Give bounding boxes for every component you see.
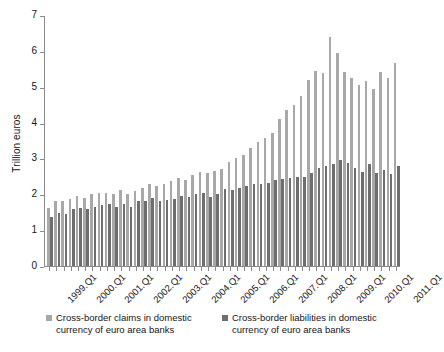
x-tick-label: 2008.Q1 [325,272,358,305]
bar-group [191,16,198,266]
bar-group [278,16,285,266]
bar-liabilities [115,207,118,266]
bar-claims [112,194,115,266]
x-tick-mark [179,267,180,271]
x-tick-label: 2004.Q1 [210,272,243,305]
bar-liabilities [339,160,342,266]
x-tick-mark [194,266,195,271]
bar-group [220,16,227,266]
y-tick-label: 5 [31,81,37,92]
bar-group [134,16,141,266]
bar-claims [61,201,64,266]
bar-group [314,16,321,266]
bar-group [358,16,365,266]
bar-group [98,16,105,266]
bar-group [350,16,357,266]
x-tick-label: 2005.Q1 [239,272,272,305]
y-tick-mark [40,16,44,17]
bar-group [343,16,350,266]
x-tick-mark [223,266,224,271]
x-tick-mark [309,266,310,271]
bar-claims [379,72,382,266]
bar-group [170,16,177,266]
bar-claims [285,110,288,266]
x-tick-label: 2009.Q1 [354,272,387,305]
x-tick-label: 2003.Q1 [181,272,214,305]
bar-claims [372,89,375,266]
bar-liabilities [238,188,241,266]
bar-claims [163,184,166,266]
bar-claims [126,194,129,266]
plot-area: 01234567 [44,16,400,267]
bar-claims [329,37,332,266]
x-tick-mark [186,267,187,271]
x-tick-mark [302,267,303,271]
bar-claims [206,173,209,266]
bar-group [394,16,401,266]
y-tick: 5 [18,88,44,89]
bar-liabilities [58,213,61,266]
bar-claims [134,191,137,266]
x-tick-mark [360,267,361,271]
x-tick-mark [143,267,144,271]
bar-claims [387,78,390,266]
x-tick-mark [172,267,173,271]
y-tick-label: 3 [31,152,37,163]
bar-liabilities [123,204,126,266]
liabilities-swatch [222,315,228,321]
y-tick-mark [40,88,44,89]
bar-group [213,16,220,266]
bar-group [105,16,112,266]
y-tick-mark [40,231,44,232]
bar-liabilities [274,180,277,266]
bar-claims [213,171,216,266]
bar-group [155,16,162,266]
x-tick-mark [324,267,325,271]
x-tick-mark [100,267,101,271]
bar-group [235,16,242,266]
x-tick-mark [266,267,267,271]
bar-liabilities [101,205,104,266]
x-tick-mark [56,267,57,271]
x-tick-label: 2000.Q1 [94,272,127,305]
x-tick-label: 2011.Q1 [412,272,444,304]
bar-liabilities [130,207,133,266]
bar-liabilities [332,164,335,266]
bar-liabilities [383,170,386,266]
x-tick-label: 2006.Q1 [268,272,301,305]
bar-liabilities [325,166,328,266]
bar-group [365,16,372,266]
x-tick-mark [338,266,339,271]
bar-claims [105,193,108,267]
bar-group [249,16,256,266]
y-tick: 2 [18,195,44,196]
bar-claims [249,148,252,266]
bar-group [126,16,133,266]
bar-liabilities [188,197,191,266]
x-tick-mark [85,267,86,271]
bar-claims [191,175,194,266]
bar-liabilities [216,194,219,266]
bar-liabilities [281,179,284,266]
legend-entry-liabilities: Cross-border liabilities in domestic cur… [222,312,392,335]
bar-liabilities [253,184,256,266]
y-tick-mark [40,124,44,125]
bar-liabilities [166,200,169,266]
chart-legend: Cross-border claims in domestic currency… [0,312,406,350]
bar-liabilities [151,198,154,266]
x-tick-mark [353,267,354,271]
x-tick-label: 2001.Q1 [123,272,156,305]
bar-liabilities [144,201,147,266]
bar-liabilities [224,189,227,266]
bar-liabilities [375,173,378,266]
bar-liabilities [159,201,162,266]
bar-liabilities [94,207,97,266]
bar-group [141,16,148,266]
bar-liabilities [347,163,350,266]
bar-claims [300,96,303,266]
bar-claims [257,142,260,266]
bar-liabilities [245,186,248,266]
bar-claims [98,193,101,266]
bar-claims [293,105,296,266]
